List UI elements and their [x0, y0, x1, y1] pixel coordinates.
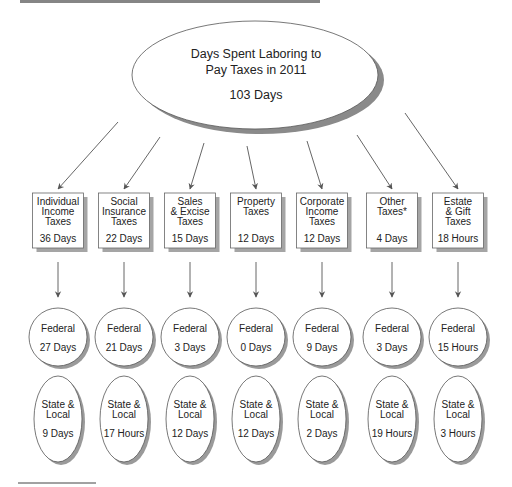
category-column: CorporateIncomeTaxes12 DaysFederal9 Days… — [293, 141, 354, 465]
category-name-line: Taxes — [177, 216, 203, 227]
federal-value: 15 Hours — [438, 342, 479, 353]
state-local-value: 2 Days — [306, 428, 337, 439]
category-total: 12 Days — [304, 233, 341, 244]
main-title-line1: Days Spent Laboring to — [191, 47, 322, 61]
main-node: Days Spent Laboring to Pay Taxes in 2011… — [132, 21, 384, 134]
federal-label: Federal — [173, 323, 207, 334]
category-name-line: Taxes — [445, 216, 471, 227]
federal-label: Federal — [305, 323, 339, 334]
category-columns: IndividualIncomeTaxes36 DaysFederal27 Da… — [29, 113, 490, 465]
main-total: 103 Days — [230, 88, 283, 102]
federal-circle — [363, 308, 421, 366]
arrow-main-to-category — [357, 135, 392, 189]
federal-value: 3 Days — [174, 342, 205, 353]
state-local-value: 9 Days — [42, 428, 73, 439]
federal-circle — [429, 308, 487, 366]
federal-label: Federal — [239, 323, 273, 334]
category-name-line: Taxes — [309, 216, 335, 227]
state-local-value: 19 Hours — [372, 428, 413, 439]
arrow-main-to-category — [405, 113, 458, 189]
category-total: 12 Days — [238, 233, 275, 244]
federal-label: Federal — [107, 323, 141, 334]
state-local-value: 3 Hours — [440, 428, 475, 439]
category-name-line: Taxes* — [377, 206, 407, 217]
federal-label: Federal — [41, 323, 75, 334]
category-total: 4 Days — [376, 233, 407, 244]
federal-circle — [227, 308, 285, 366]
category-name-line: Taxes — [111, 216, 137, 227]
federal-value: 3 Days — [376, 342, 407, 353]
category-column: Sales& ExciseTaxes15 DaysFederal3 DaysSt… — [161, 143, 222, 465]
federal-label: Federal — [441, 323, 475, 334]
arrow-main-to-category — [307, 141, 322, 189]
arrow-main-to-category — [124, 137, 160, 189]
federal-value: 21 Days — [106, 342, 143, 353]
federal-circle — [29, 308, 87, 366]
main-title-line2: Pay Taxes in 2011 — [206, 63, 307, 77]
state-local-value: 12 Days — [172, 428, 209, 439]
state-local-label-line2: Local — [446, 409, 470, 420]
state-local-value: 17 Hours — [104, 428, 145, 439]
federal-value: 9 Days — [306, 342, 337, 353]
category-column: SocialInsuranceTaxes22 DaysFederal21 Day… — [95, 137, 160, 465]
category-total: 36 Days — [40, 233, 77, 244]
state-local-value: 12 Days — [238, 428, 275, 439]
category-name-line: Taxes — [45, 216, 71, 227]
federal-circle — [95, 308, 153, 366]
category-column: PropertyTaxes12 DaysFederal0 DaysState &… — [227, 146, 288, 465]
state-local-label-line2: Local — [380, 409, 404, 420]
federal-circle — [293, 308, 351, 366]
state-local-label-line2: Local — [244, 409, 268, 420]
category-name-line: Taxes — [243, 206, 269, 217]
state-local-label-line2: Local — [112, 409, 136, 420]
category-total: 22 Days — [106, 233, 143, 244]
category-total: 15 Days — [172, 233, 209, 244]
arrow-main-to-category — [247, 146, 256, 189]
federal-label: Federal — [375, 323, 409, 334]
arrow-main-to-category — [58, 122, 118, 189]
tax-days-diagram: Days Spent Laboring to Pay Taxes in 2011… — [0, 0, 512, 487]
category-total: 18 Hours — [438, 233, 479, 244]
federal-circle — [161, 308, 219, 366]
state-local-label-line2: Local — [178, 409, 202, 420]
state-local-label-line2: Local — [310, 409, 334, 420]
arrow-main-to-category — [190, 143, 204, 189]
federal-value: 0 Days — [240, 342, 271, 353]
state-local-label-line2: Local — [46, 409, 70, 420]
category-column: OtherTaxes*4 DaysFederal3 DaysState &Loc… — [357, 135, 424, 465]
cropped-heading-remnant — [20, 0, 320, 3]
federal-value: 27 Days — [40, 342, 77, 353]
